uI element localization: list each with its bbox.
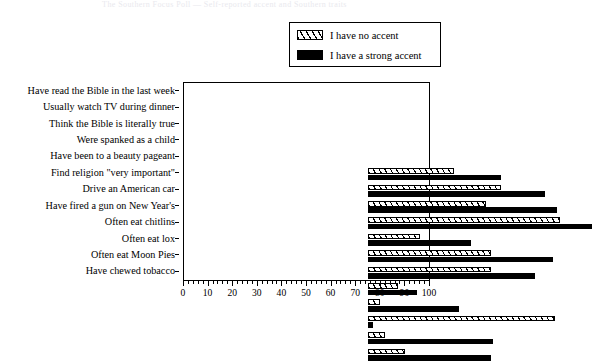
x-tick-major (331, 281, 332, 286)
category-tick (175, 222, 179, 223)
x-tick-minor (424, 281, 425, 284)
x-tick-minor (286, 281, 287, 284)
bar-strong-accent (368, 257, 553, 263)
category-label: Have read the Bible in the last week (28, 85, 179, 96)
x-tick-minor (370, 281, 371, 284)
cut-off-title: The Southern Focus Poll — Self-reported … (0, 0, 449, 9)
x-tick-minor (385, 281, 386, 284)
x-tick-minor (316, 281, 317, 284)
x-tick-minor (213, 281, 214, 284)
bar-strong-accent (368, 175, 501, 181)
x-tick-major (355, 281, 356, 286)
category-tick (175, 172, 179, 173)
category-row: Have read the Bible in the last week (0, 82, 179, 99)
x-tick-major (306, 281, 307, 286)
bar-group (368, 248, 596, 265)
x-tick-minor (414, 281, 415, 284)
category-row: Think the Bible is literally true (0, 115, 179, 132)
category-tick (175, 107, 179, 108)
bar-group (368, 314, 596, 331)
bar-no-accent (368, 250, 491, 256)
x-tick-label: 70 (350, 288, 360, 298)
x-tick-major (232, 281, 233, 286)
x-tick-minor (365, 281, 366, 284)
category-label: Think the Bible is literally true (49, 118, 179, 129)
x-tick-major (380, 281, 381, 286)
x-tick-minor (375, 281, 376, 284)
bar-series-container (368, 166, 596, 363)
category-row: Often eat chitlins (0, 213, 179, 230)
x-tick-minor (291, 281, 292, 284)
category-tick (175, 139, 179, 140)
x-tick-minor (203, 281, 204, 284)
category-tick (175, 254, 179, 255)
category-row: Were spanked as a child (0, 131, 179, 148)
category-row: Often eat Moon Pies (0, 246, 179, 263)
bar-strong-accent (368, 207, 557, 213)
bar-group (368, 215, 596, 232)
x-tick-minor (217, 281, 218, 284)
category-tick (175, 123, 179, 124)
bar-strong-accent (368, 273, 535, 279)
bar-group (368, 347, 596, 363)
bar-no-accent (368, 168, 454, 174)
category-tick (175, 271, 179, 272)
bar-group (368, 330, 596, 347)
bar-no-accent (368, 201, 486, 207)
x-tick-minor (193, 281, 194, 284)
bar-no-accent (368, 267, 491, 273)
x-tick-label: 20 (227, 288, 237, 298)
x-tick-minor (326, 281, 327, 284)
x-tick-minor (390, 281, 391, 284)
category-label: Were spanked as a child (77, 134, 179, 145)
x-tick-minor (399, 281, 400, 284)
bar-group (368, 265, 596, 282)
legend-label-no-accent: I have no accent (330, 30, 399, 41)
x-tick-label: 100 (422, 288, 436, 298)
category-label: Have been to a beauty pageant (50, 150, 179, 161)
x-tick-minor (272, 281, 273, 284)
bar-no-accent (368, 349, 405, 355)
x-tick-minor (340, 281, 341, 284)
bar-strong-accent (368, 240, 471, 246)
bar-no-accent (368, 234, 420, 240)
x-axis: 0102030405060708090100 (183, 281, 431, 309)
x-tick-label: 50 (301, 288, 311, 298)
x-tick-minor (276, 281, 277, 284)
category-row: Usually watch TV during dinner (0, 98, 179, 115)
x-tick-minor (242, 281, 243, 284)
category-label: Often eat chitlins (105, 216, 179, 227)
bar-group (368, 232, 596, 249)
x-tick-minor (237, 281, 238, 284)
legend-label-strong-accent: I have a strong accent (330, 50, 422, 61)
category-label: Have chewed tobacco (86, 265, 179, 276)
x-tick-label: 60 (326, 288, 336, 298)
category-tick (175, 90, 179, 91)
x-tick-major (429, 281, 430, 286)
x-tick-minor (262, 281, 263, 284)
solid-swatch-icon (297, 50, 323, 60)
category-axis-labels: Have read the Bible in the last weekUsua… (0, 82, 179, 281)
category-tick (175, 156, 179, 157)
category-label: Drive an American car (83, 183, 180, 194)
x-tick-label: 80 (375, 288, 385, 298)
x-tick-label: 10 (203, 288, 213, 298)
category-label: Have fired a gun on New Year's (46, 200, 179, 211)
x-tick-minor (296, 281, 297, 284)
x-tick-minor (360, 281, 361, 284)
category-row: Have been to a beauty pageant (0, 148, 179, 165)
x-tick-minor (247, 281, 248, 284)
category-tick (175, 189, 179, 190)
category-label: Find religion "very important" (51, 167, 179, 178)
x-tick-minor (395, 281, 396, 284)
x-tick-minor (321, 281, 322, 284)
x-tick-minor (222, 281, 223, 284)
category-row: Find religion "very important" (0, 164, 179, 181)
x-tick-minor (227, 281, 228, 284)
bar-group (368, 182, 596, 199)
plot-area (183, 82, 430, 281)
category-tick (175, 205, 179, 206)
category-tick (175, 238, 179, 239)
x-tick-major (183, 281, 184, 286)
x-tick-minor (409, 281, 410, 284)
